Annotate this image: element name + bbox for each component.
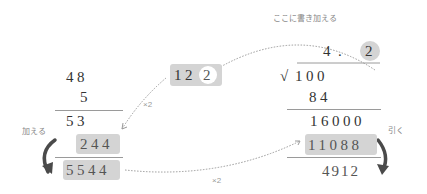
times2-lower: ×2 <box>212 176 221 185</box>
write-here-annotation: ここに書き加える <box>273 12 337 23</box>
subtract-label: 引く <box>388 124 404 135</box>
right-rule-1 <box>287 109 381 110</box>
row-4912: 4912 <box>322 162 360 180</box>
left-rule-1 <box>55 110 123 111</box>
left-row-53: 53 <box>66 112 88 130</box>
left-rule-2 <box>55 157 123 158</box>
subtract-arrowhead <box>377 164 389 175</box>
add-label: 加える <box>22 125 46 136</box>
quotient-int: 4 <box>323 42 334 60</box>
box-prefix-12: 12 <box>174 66 196 84</box>
row-11088: 11088 <box>308 136 362 154</box>
sqrt-symbol: √ <box>280 67 288 85</box>
row-84: 84 <box>309 88 331 106</box>
row-16000: 16000 <box>310 112 365 130</box>
box-circled-2: 2 <box>203 66 214 84</box>
quotient-digit: 2 <box>365 42 376 60</box>
left-row-244: 244 <box>80 135 113 153</box>
right-rule-2 <box>287 157 381 158</box>
dotted-curve-bottom <box>125 141 300 172</box>
left-row-5544: 5544 <box>66 161 110 179</box>
times2-upper: ×2 <box>143 100 152 109</box>
quotient-dot: . <box>338 42 345 60</box>
radicand-100: 100 <box>295 67 328 85</box>
left-row-5: 5 <box>80 88 91 106</box>
left-row-48: 48 <box>66 68 88 86</box>
